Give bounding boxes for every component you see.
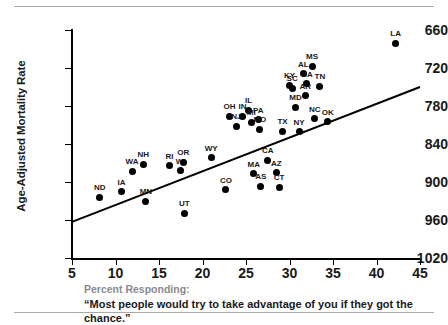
data-point bbox=[140, 161, 147, 168]
data-point-label: TN bbox=[305, 73, 335, 81]
data-point bbox=[118, 188, 125, 195]
data-point bbox=[279, 128, 286, 135]
data-point bbox=[256, 126, 263, 133]
scatter-plot-figure: Age-Adjusted Mortality Rate 102096090084… bbox=[0, 0, 448, 325]
data-point-label: AZ bbox=[261, 160, 291, 168]
x-tick-label: 20 bbox=[183, 266, 223, 280]
data-point bbox=[309, 63, 316, 70]
data-point bbox=[276, 184, 283, 191]
data-point-label: MS bbox=[297, 53, 327, 61]
x-tick-label: 35 bbox=[313, 266, 353, 280]
data-point bbox=[222, 186, 229, 193]
data-point bbox=[392, 40, 399, 47]
data-point-label: WY bbox=[196, 145, 226, 153]
y-tick-label: 780 bbox=[390, 99, 448, 113]
data-point bbox=[181, 210, 188, 217]
data-point-label: PA bbox=[243, 107, 273, 115]
x-tick-label: 15 bbox=[139, 266, 179, 280]
data-point bbox=[324, 118, 331, 125]
caption-lead: Percent Responding: bbox=[84, 283, 434, 296]
y-tick-mark bbox=[65, 182, 71, 183]
data-point bbox=[316, 83, 323, 90]
data-point-label: OK bbox=[313, 109, 343, 117]
data-point bbox=[292, 104, 299, 111]
data-point bbox=[180, 159, 187, 166]
data-point-label: CO bbox=[211, 177, 241, 185]
y-tick-label: 1020 bbox=[390, 251, 448, 265]
caption: Percent Responding: “Most people would t… bbox=[84, 283, 434, 325]
data-point bbox=[233, 123, 240, 130]
y-tick-label: 720 bbox=[390, 61, 448, 75]
y-axis-line bbox=[71, 29, 73, 260]
data-point bbox=[302, 92, 309, 99]
y-tick-label: 900 bbox=[390, 175, 448, 189]
y-tick-label: 840 bbox=[390, 137, 448, 151]
y-tick-mark bbox=[65, 30, 71, 31]
x-tick-label: 30 bbox=[270, 266, 310, 280]
data-point bbox=[296, 128, 303, 135]
data-point bbox=[129, 168, 136, 175]
data-point bbox=[96, 194, 103, 201]
data-point bbox=[208, 154, 215, 161]
y-axis-title: Age-Adjusted Mortality Rate bbox=[15, 41, 27, 231]
y-tick-mark bbox=[65, 68, 71, 69]
data-point-label: IA bbox=[107, 179, 137, 187]
data-point-label: OR bbox=[168, 149, 198, 157]
caption-quote: “Most people would try to take advantage… bbox=[84, 297, 434, 325]
y-tick-mark bbox=[65, 258, 71, 259]
y-tick-mark bbox=[65, 106, 71, 107]
data-point-label: MN bbox=[131, 188, 161, 196]
y-tick-mark bbox=[65, 220, 71, 221]
data-point-label: UT bbox=[169, 200, 199, 208]
x-tick-label: 45 bbox=[400, 266, 440, 280]
y-tick-mark bbox=[65, 144, 71, 145]
data-point bbox=[257, 183, 264, 190]
x-tick-label: 40 bbox=[357, 266, 397, 280]
data-point-label: IL bbox=[234, 97, 264, 105]
x-tick-label: 25 bbox=[226, 266, 266, 280]
plot-area: Age-Adjusted Mortality Rate 102096090084… bbox=[0, 0, 448, 325]
data-point-label: NY bbox=[284, 119, 314, 127]
data-point-label: CA bbox=[253, 147, 283, 155]
x-tick-label: 5 bbox=[52, 266, 92, 280]
data-point bbox=[142, 198, 149, 205]
data-point-label: CT bbox=[264, 174, 294, 182]
data-point-label: LA bbox=[381, 30, 411, 38]
data-point bbox=[177, 167, 184, 174]
x-tick-label: 10 bbox=[96, 266, 136, 280]
y-tick-label: 960 bbox=[390, 213, 448, 227]
